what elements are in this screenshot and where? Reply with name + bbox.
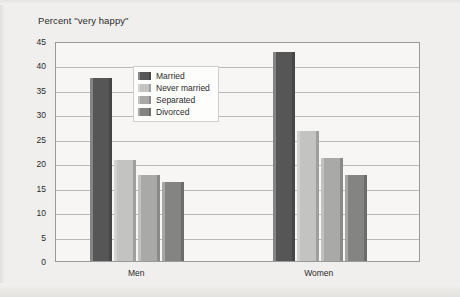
bar-highlight <box>297 131 300 261</box>
y-tick-label: 30 <box>37 110 46 120</box>
legend-swatch-icon <box>138 84 151 92</box>
bar-men-divorced <box>162 182 184 261</box>
bar-women-separated <box>321 158 343 261</box>
swatch-highlight <box>138 96 140 104</box>
y-tick-label: 5 <box>41 233 46 243</box>
bar-shadow <box>364 175 367 261</box>
bar-shadow <box>340 158 343 261</box>
legend-label: Never married <box>156 83 210 94</box>
bar-men-never-married <box>114 160 136 261</box>
y-tick-label: 10 <box>37 208 46 218</box>
legend-swatch-icon <box>138 72 151 80</box>
legend-label: Married <box>156 71 185 82</box>
page-edge-top <box>0 0 460 5</box>
swatch-shadow <box>149 96 151 104</box>
plot-area <box>55 42 420 262</box>
bar-men-married <box>90 78 112 261</box>
x-tick-label: Men <box>128 268 145 278</box>
bar-shadow <box>157 175 160 261</box>
y-tick-label: 20 <box>37 159 46 169</box>
bar-highlight <box>162 182 165 261</box>
bar-men-separated <box>138 175 160 261</box>
y-tick-label: 25 <box>37 135 46 145</box>
bar-highlight <box>345 175 348 261</box>
chart-legend: MarriedNever marriedSeparatedDivorced <box>133 66 219 122</box>
legend-label: Divorced <box>156 107 190 118</box>
bar-shadow <box>109 78 112 261</box>
bar-highlight <box>273 52 276 261</box>
legend-item: Separated <box>138 94 210 106</box>
legend-item: Married <box>138 70 210 82</box>
swatch-highlight <box>138 72 140 80</box>
bar-highlight <box>90 78 93 261</box>
bar-highlight <box>138 175 141 261</box>
bar-women-never-married <box>297 131 319 261</box>
legend-swatch-icon <box>138 96 151 104</box>
bar-shadow <box>292 52 295 261</box>
bar-shadow <box>316 131 319 261</box>
y-tick-label: 45 <box>37 37 46 47</box>
bar-women-divorced <box>345 175 367 261</box>
bar-highlight <box>321 158 324 261</box>
legend-swatch-icon <box>138 108 151 116</box>
y-tick-label: 40 <box>37 61 46 71</box>
bar-women-married <box>273 52 295 261</box>
legend-item: Never married <box>138 82 210 94</box>
y-axis-labels: 051015202530354045 <box>0 0 52 297</box>
legend-item: Divorced <box>138 106 210 118</box>
swatch-shadow <box>149 108 151 116</box>
swatch-shadow <box>149 84 151 92</box>
gridline <box>56 67 419 68</box>
bar-shadow <box>181 182 184 261</box>
bar-highlight <box>114 160 117 261</box>
x-tick-label: Women <box>304 268 333 278</box>
legend-label: Separated <box>156 95 195 106</box>
swatch-shadow <box>149 72 151 80</box>
bar-shadow <box>133 160 136 261</box>
page-edge-bottom <box>0 283 460 297</box>
y-tick-label: 0 <box>41 257 46 267</box>
swatch-highlight <box>138 84 140 92</box>
y-tick-label: 15 <box>37 184 46 194</box>
swatch-highlight <box>138 108 140 116</box>
y-tick-label: 35 <box>37 86 46 96</box>
